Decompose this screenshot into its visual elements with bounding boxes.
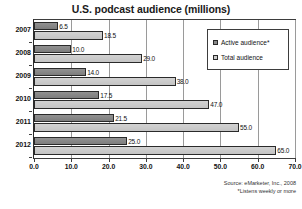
y-tick-mark — [29, 65, 32, 66]
chart-row: 25.065.0 — [34, 135, 295, 158]
bar-total-audience — [34, 146, 276, 155]
bar-value-label-active: 6.5 — [59, 23, 67, 30]
legend-entry: Active audience* — [213, 35, 288, 50]
bar-total-audience — [34, 54, 142, 63]
y-tick-mark — [29, 157, 32, 158]
x-tick-mark — [146, 159, 147, 162]
legend-swatch-icon — [213, 40, 218, 45]
chart-row: 17.547.0 — [34, 89, 295, 112]
chart-footnotes: Source: eMarketer, Inc., 2008 *Listens w… — [224, 179, 296, 195]
x-tick-mark — [258, 159, 259, 162]
podcast-audience-chart: U.S. podcast audience (millions) 2007200… — [0, 0, 302, 209]
x-tick-mark — [220, 159, 221, 162]
bar-total-audience — [34, 123, 239, 132]
bar-value-label-active: 21.5 — [115, 115, 127, 122]
x-tick-label: 70.0 — [288, 163, 301, 170]
bar-value-label-active: 10.0 — [72, 46, 84, 53]
bar-active-audience — [34, 91, 99, 99]
y-tick-mark — [29, 88, 32, 89]
year-label-2008: 2008 — [3, 49, 31, 56]
bar-value-label-total: 38.0 — [177, 78, 189, 85]
y-tick-mark — [29, 111, 32, 112]
chart-title: U.S. podcast audience (millions) — [0, 3, 302, 15]
chart-row: 21.555.0 — [34, 112, 295, 135]
year-label-2009: 2009 — [3, 72, 31, 79]
year-label-2011: 2011 — [3, 118, 31, 125]
bar-value-label-total: 47.0 — [210, 101, 222, 108]
bar-value-label-active: 25.0 — [128, 138, 140, 145]
year-label-2010: 2010 — [3, 95, 31, 102]
x-tick-label: 60.0 — [251, 163, 264, 170]
legend-label: Active audience* — [221, 39, 269, 46]
y-tick-mark — [29, 134, 32, 135]
x-tick-mark — [34, 159, 35, 162]
bar-total-audience — [34, 100, 209, 109]
x-tick-label: 10.0 — [65, 163, 78, 170]
bar-value-label-total: 18.5 — [104, 32, 116, 39]
x-tick-mark — [109, 159, 110, 162]
bar-active-audience — [34, 68, 86, 76]
gridline — [295, 20, 296, 158]
x-tick-mark — [295, 159, 296, 162]
bar-value-label-active: 17.5 — [100, 92, 112, 99]
year-label-2007: 2007 — [3, 26, 31, 33]
bar-active-audience — [34, 45, 71, 53]
legend-swatch-icon — [213, 55, 218, 60]
bar-value-label-total: 29.0 — [143, 55, 155, 62]
x-axis: 0.010.020.030.040.050.060.070.0 — [33, 159, 296, 173]
bar-total-audience — [34, 31, 103, 40]
bar-active-audience — [34, 22, 58, 30]
x-tick-label: 20.0 — [102, 163, 115, 170]
y-axis-year-labels: 200720082009201020112012 — [0, 19, 31, 159]
x-tick-mark — [183, 159, 184, 162]
x-tick-label: 40.0 — [177, 163, 190, 170]
bar-value-label-active: 14.0 — [87, 69, 99, 76]
bar-active-audience — [34, 114, 114, 122]
bar-value-label-total: 65.0 — [277, 147, 289, 154]
bar-value-label-total: 55.0 — [240, 124, 252, 131]
x-tick-label: 50.0 — [214, 163, 227, 170]
x-tick-label: 30.0 — [139, 163, 152, 170]
chart-legend: Active audience*Total audience — [207, 29, 289, 70]
x-tick-label: 0.0 — [29, 163, 38, 170]
bar-total-audience — [34, 77, 176, 86]
year-label-2012: 2012 — [3, 141, 31, 148]
x-tick-mark — [71, 159, 72, 162]
y-tick-mark — [29, 42, 32, 43]
source-note: Source: eMarketer, Inc., 2008 — [224, 179, 296, 187]
legend-entry: Total audience — [213, 50, 288, 65]
bar-active-audience — [34, 137, 127, 145]
legend-label: Total audience — [221, 54, 263, 61]
asterisk-note: *Listens weekly or more — [224, 187, 296, 195]
